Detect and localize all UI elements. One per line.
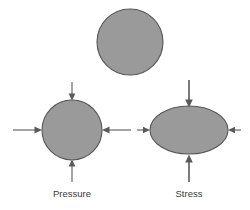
diagram-canvas: Pressure: [0, 0, 250, 210]
pressure-stress-diagram: Pressure: [0, 0, 250, 210]
pressure-circle: [42, 100, 102, 160]
pressure-arrow-right: [102, 127, 131, 134]
pressure-group: Pressure: [13, 82, 131, 199]
pressure-arrow-top: [69, 82, 76, 101]
pressure-arrow-left: [13, 127, 42, 134]
undeformed-circle: [97, 9, 163, 75]
stress-arrow-top: [185, 80, 193, 108]
stress-ellipse: [150, 106, 228, 154]
stress-arrow-bottom: [185, 155, 193, 183]
stress-group: Stress: [137, 80, 241, 199]
caption-stress: Stress: [176, 188, 203, 199]
stress-arrow-left: [137, 127, 150, 133]
caption-pressure: Pressure: [53, 188, 91, 199]
stress-arrow-right: [228, 127, 241, 133]
pressure-arrow-bottom: [69, 160, 76, 183]
